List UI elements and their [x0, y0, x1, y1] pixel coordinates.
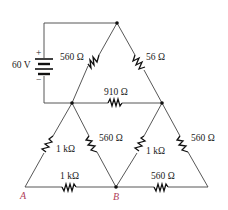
resistor-lower-left-outer-label: 1 kΩ: [56, 144, 75, 154]
resistor-lower-right-inner-label: 1 kΩ: [146, 146, 165, 156]
terminal-b-label: B: [113, 191, 119, 202]
resistor-lower-left-inner-label: 560 Ω: [99, 133, 123, 143]
resistor-top-right-label: 56 Ω: [146, 52, 165, 62]
junction-mid-left: [70, 101, 74, 105]
junction-b: [114, 185, 118, 189]
circuit-diagram: + − 60 V 560 Ω 56 Ω 910 Ω 1 kΩ 560 Ω: [0, 0, 228, 210]
resistor-mid-horizontal: [72, 99, 162, 106]
junction-mid-right: [160, 101, 164, 105]
resistor-mid-horizontal-label: 910 Ω: [104, 87, 128, 97]
battery-plus-sign: +: [36, 48, 41, 58]
terminal-a-label: A: [19, 190, 27, 201]
battery-minus-sign: −: [36, 75, 41, 85]
resistor-bottom-left-label: 1 kΩ: [60, 171, 79, 181]
resistor-bottom-right: [116, 184, 208, 191]
junction-top: [115, 21, 119, 25]
resistor-bottom-right-label: 560 Ω: [151, 171, 175, 181]
resistor-top-left-label: 560 Ω: [60, 52, 84, 62]
resistor-lower-right-outer-label: 560 Ω: [191, 133, 215, 143]
battery-voltage-label: 60 V: [12, 60, 31, 70]
battery-symbol: [35, 59, 53, 74]
resistor-bottom-left: [25, 184, 116, 191]
